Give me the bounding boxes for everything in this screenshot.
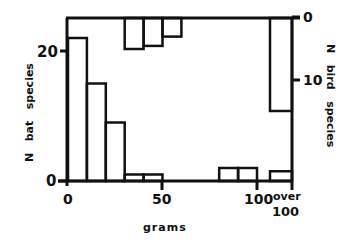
x-tick-label-50: 50 [152, 191, 172, 207]
bat-bar [106, 123, 125, 182]
bat-bar [144, 175, 163, 182]
bird-bar [125, 18, 144, 49]
left-axis-title: N bat species [23, 63, 36, 162]
bird-bar [144, 18, 163, 46]
bat-bar [219, 168, 238, 181]
bat-bar [87, 84, 106, 182]
x-tick-label-0: 0 [63, 191, 73, 207]
bat-bar [125, 175, 144, 182]
right-tick-label-10: 10 [303, 72, 323, 88]
x-axis-title: grams [143, 221, 187, 234]
bat-bird-mass-histogram: 20 0 0 10 0 50 100 over 100 grams N bat … [0, 0, 362, 242]
x-tick-label-over: over [273, 190, 301, 203]
bat-bar [238, 168, 257, 181]
right-axis-title: N bird species [324, 44, 337, 148]
right-tick-label-0: 0 [303, 9, 313, 25]
x-tick-label-over-100: 100 [272, 204, 299, 219]
bird-bars [125, 18, 292, 111]
axes [58, 17, 300, 190]
x-tick-label-100: 100 [244, 191, 273, 207]
left-tick-label-20: 20 [37, 43, 58, 61]
bat-bars [68, 38, 292, 181]
bird-bar [270, 18, 292, 111]
bird-bar [163, 18, 182, 37]
bat-bar [68, 38, 87, 181]
left-tick-label-0: 0 [46, 172, 56, 190]
